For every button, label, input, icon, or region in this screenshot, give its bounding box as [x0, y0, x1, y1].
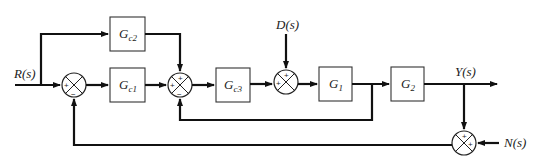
summing-junction-4: + +: [452, 131, 476, 155]
svg-text:−: −: [177, 90, 182, 99]
svg-text:−: −: [71, 90, 76, 99]
outer-feedback-path: [74, 99, 452, 145]
svg-text:+: +: [276, 79, 281, 88]
noise-signal-label: N(s): [503, 135, 526, 150]
summing-junction-1: + −: [62, 73, 86, 99]
svg-text:+: +: [468, 140, 473, 149]
svg-text:+: +: [178, 74, 183, 83]
svg-text:+: +: [170, 81, 175, 90]
disturbance-signal-label: D(s): [275, 17, 299, 32]
summing-junction-3: + +: [274, 70, 298, 94]
block-g1: G1: [319, 67, 352, 101]
block-gc3: Gc3: [216, 68, 250, 102]
svg-text:+: +: [64, 81, 69, 90]
block-gc1: Gc1: [110, 68, 145, 102]
input-signal-label: R(s): [13, 66, 36, 81]
block-g2: G2: [391, 67, 424, 101]
svg-text:+: +: [462, 132, 467, 141]
block-gc2: Gc2: [110, 17, 145, 51]
block-diagram: R(s) + − Gc1 Gc2 + + − Gc3 D(s): [0, 0, 535, 167]
summing-junction-2: + + −: [168, 73, 192, 99]
svg-text:+: +: [284, 71, 289, 80]
output-signal-label: Y(s): [455, 64, 476, 79]
